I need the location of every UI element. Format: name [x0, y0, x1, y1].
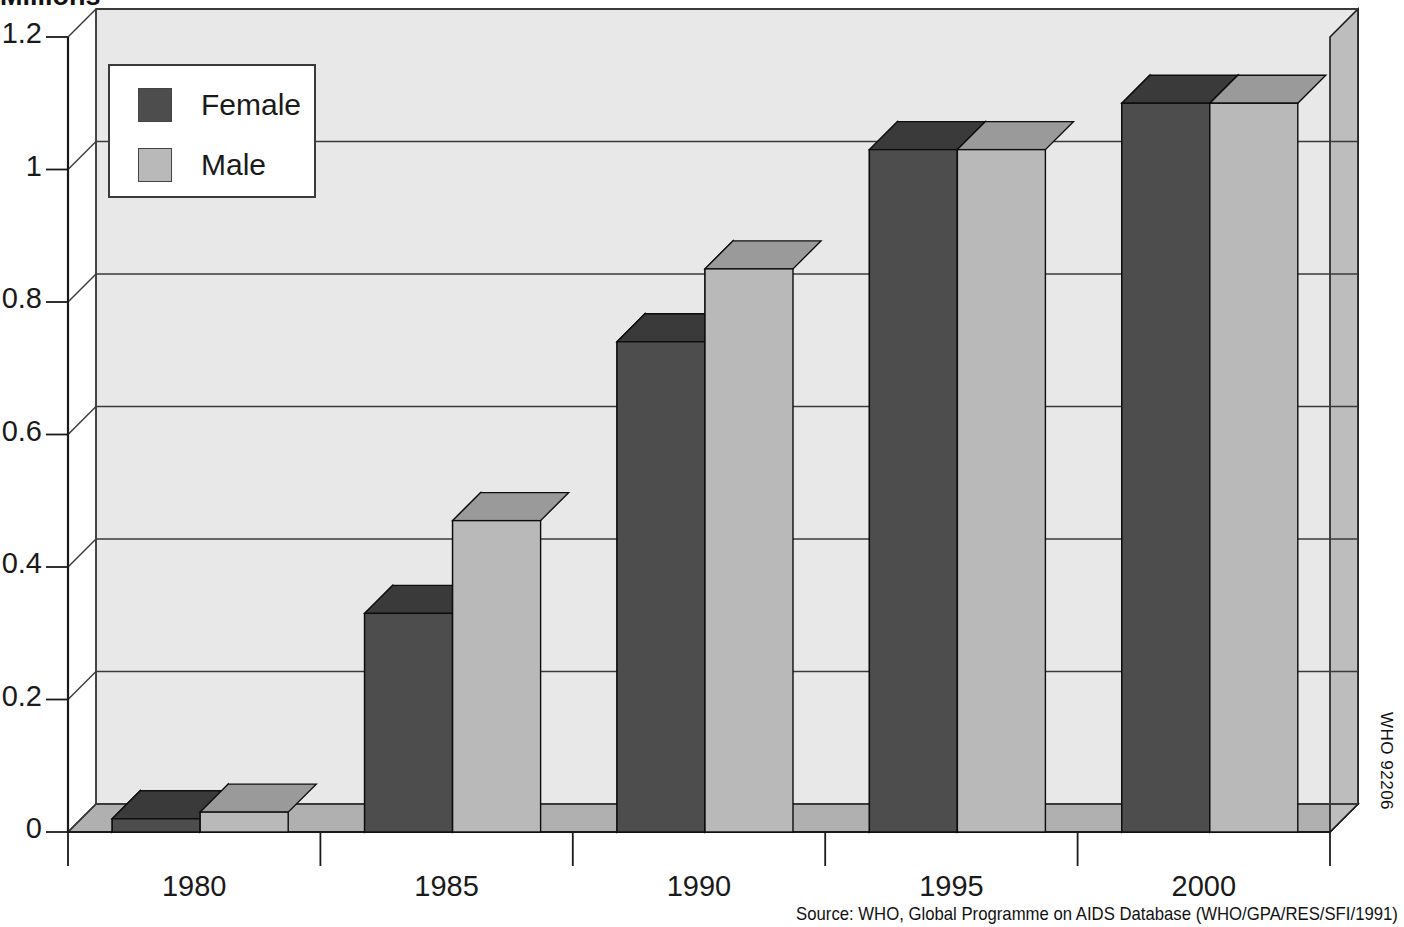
legend-label-female: Female — [201, 90, 301, 120]
legend-item-male: Male — [138, 148, 266, 182]
y-axis-tick-label: 1 — [0, 150, 42, 183]
gridline-lead-0.4 — [68, 539, 96, 567]
legend-label-male: Male — [201, 150, 266, 180]
x-axis-tick-label: 2000 — [1124, 870, 1284, 903]
source-note: Source: WHO, Global Programme on AIDS Da… — [796, 903, 1398, 925]
y-axis-tick-label: 0.8 — [0, 282, 42, 315]
x-axis-tick-label: 1980 — [114, 870, 274, 903]
gridline-lead-1 — [68, 142, 96, 170]
y-axis-tick-label: 0 — [0, 812, 42, 845]
who-code-label: WHO 92206 — [1376, 712, 1396, 810]
x-axis-tick-label: 1995 — [871, 870, 1031, 903]
gridline-lead-0.8 — [68, 274, 96, 302]
gridline-lead-0.2 — [68, 672, 96, 700]
legend-item-female: Female — [138, 88, 301, 122]
x-axis-tick-label: 1985 — [367, 870, 527, 903]
plot-right-wall — [1330, 9, 1358, 832]
gridline-lead-0.6 — [68, 407, 96, 435]
legend-swatch-female — [138, 88, 172, 122]
y-axis-tick-label: 0.6 — [0, 415, 42, 448]
chart-legend: Female Male — [108, 64, 316, 198]
y-axis-tick-label: 0.2 — [0, 680, 42, 713]
x-axis-tick-label: 1990 — [619, 870, 779, 903]
y-axis-tick-label: 0.4 — [0, 547, 42, 580]
legend-swatch-male — [138, 148, 172, 182]
y-axis-tick-label: 1.2 — [0, 17, 42, 50]
gridline-lead-1.2 — [68, 9, 96, 37]
